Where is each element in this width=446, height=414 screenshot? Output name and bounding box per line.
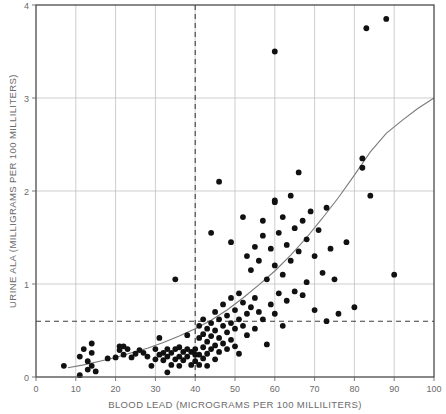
data-point [352, 304, 358, 310]
data-point [184, 354, 190, 360]
data-point [272, 49, 278, 55]
data-point [260, 218, 266, 224]
data-point [93, 369, 99, 375]
data-point [192, 346, 198, 352]
data-point [316, 227, 322, 233]
data-point [220, 302, 226, 308]
data-point [176, 363, 182, 369]
data-point [344, 239, 350, 245]
x-tick-label: 100 [426, 384, 441, 394]
data-point [212, 342, 218, 348]
data-point [252, 295, 258, 301]
x-tick-label: 90 [389, 384, 399, 394]
data-point [164, 369, 170, 375]
data-point [312, 253, 318, 259]
data-point [296, 170, 302, 176]
data-point [359, 156, 365, 162]
data-point [204, 363, 210, 369]
data-point [264, 276, 270, 282]
data-point [236, 290, 242, 296]
data-point [248, 304, 254, 310]
data-point [252, 326, 258, 332]
data-point [304, 236, 310, 242]
data-point [256, 258, 262, 264]
data-point [256, 309, 262, 315]
y-axis-tick-labels: 01234 [24, 1, 29, 383]
data-point [196, 362, 202, 368]
y-tick-label: 2 [24, 187, 29, 197]
data-point [200, 344, 206, 350]
data-point [367, 193, 373, 199]
data-point [200, 331, 206, 337]
data-point [224, 346, 230, 352]
data-point [276, 230, 282, 236]
data-point [236, 316, 242, 322]
data-point [224, 329, 230, 335]
data-point [244, 332, 250, 338]
data-point [85, 358, 91, 364]
x-tick-label: 50 [230, 384, 240, 394]
data-point [236, 351, 242, 357]
data-point [292, 289, 298, 295]
data-point [172, 276, 178, 282]
x-axis-tick-labels: 0102030405060708090100 [33, 384, 441, 394]
data-point [220, 323, 226, 329]
x-tick-label: 10 [71, 384, 81, 394]
data-point [176, 344, 182, 350]
data-point [196, 323, 202, 329]
data-point [228, 295, 234, 301]
data-point [216, 335, 222, 341]
data-point [240, 300, 246, 306]
data-point [264, 342, 270, 348]
data-point [145, 354, 151, 360]
data-point [113, 355, 119, 361]
data-point [204, 339, 210, 345]
fit-curve [68, 98, 434, 368]
data-point [125, 346, 131, 352]
x-axis-title: BLOOD LEAD (MICROGRAMS PER 100 MILLILITE… [108, 399, 362, 410]
data-points [61, 16, 397, 378]
data-point [244, 311, 250, 317]
x-tick-label: 0 [33, 384, 38, 394]
data-point [324, 205, 330, 211]
data-point [308, 209, 314, 215]
data-point [216, 349, 222, 355]
data-point [224, 313, 230, 319]
data-point [284, 242, 290, 248]
data-point [244, 253, 250, 259]
data-point [89, 341, 95, 347]
data-point [121, 352, 127, 358]
x-tick-label: 40 [190, 384, 200, 394]
data-point [204, 326, 210, 332]
data-point [332, 276, 338, 282]
data-point [81, 346, 87, 352]
data-point [228, 320, 234, 326]
fit-curve-path [68, 98, 434, 368]
data-point [252, 244, 258, 250]
x-tick-label: 70 [310, 384, 320, 394]
data-point [260, 316, 266, 322]
data-point [288, 258, 294, 264]
data-point [208, 333, 214, 339]
data-point [272, 311, 278, 317]
data-point [216, 179, 222, 185]
data-point [212, 328, 218, 334]
data-point [61, 363, 67, 369]
data-point [288, 193, 294, 199]
y-tick-label: 1 [24, 280, 29, 290]
data-point [212, 309, 218, 315]
data-point [383, 16, 389, 22]
data-point [208, 320, 214, 326]
data-point [208, 230, 214, 236]
data-point [300, 292, 306, 298]
data-point [328, 246, 334, 252]
data-point [228, 239, 234, 245]
data-point [304, 279, 310, 285]
data-point [292, 225, 298, 231]
plot-area: 0102030405060708090100 01234 BLOOD LEAD … [0, 0, 446, 414]
data-point [391, 272, 397, 278]
data-point [320, 270, 326, 276]
y-axis-title: URINE ALA (MILLIGRAMS PER 100 MILLILITER… [7, 74, 18, 308]
y-tick-label: 3 [24, 94, 29, 104]
data-point [240, 323, 246, 329]
